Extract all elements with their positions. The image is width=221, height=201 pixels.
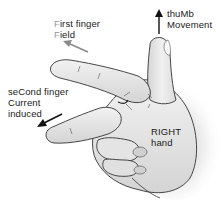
thumb-highlight: M: [181, 8, 189, 19]
first-finger-line: First finger: [54, 18, 100, 29]
second-finger-label: seCond finger Current induced: [8, 86, 68, 119]
induced-line: induced: [8, 108, 68, 119]
right-line: RIGHT: [151, 126, 181, 137]
field-arrow: [63, 40, 88, 52]
movement-line: Movement: [167, 19, 212, 30]
nail-2: [134, 166, 146, 174]
right-hand-label: RIGHT hand: [151, 126, 181, 148]
thumb-line: thuMb: [167, 8, 212, 19]
thumb-label: thuMb Movement: [167, 8, 212, 30]
current-highlight: C: [8, 97, 15, 108]
hand-line: hand: [151, 137, 181, 148]
current-line: Current: [8, 97, 68, 108]
first-finger-label: First finger Field: [54, 18, 100, 40]
nail-1: [133, 147, 147, 157]
movement-highlight: M: [167, 19, 175, 30]
field-line: Field: [54, 29, 100, 40]
thumb-shape: [148, 37, 176, 103]
second-finger-line: seCond finger: [8, 86, 68, 97]
movement-arrow: [155, 9, 163, 34]
